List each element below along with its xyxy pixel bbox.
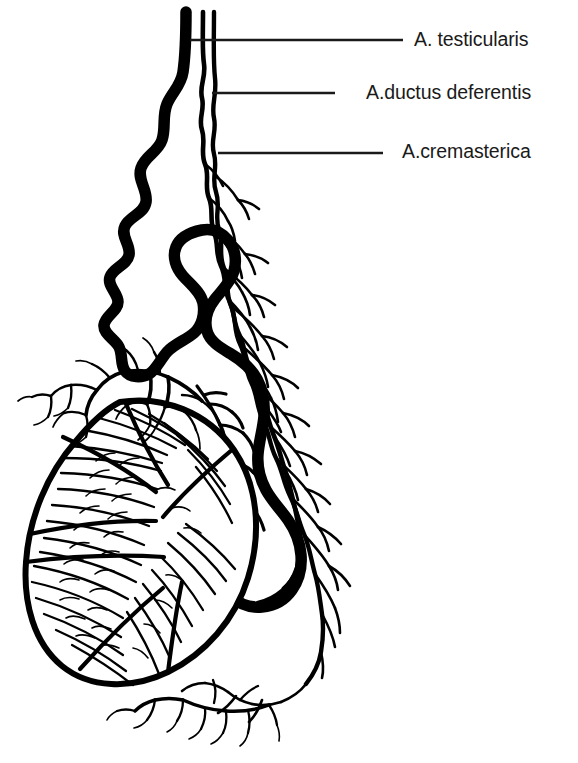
label-a-cremasterica: A.cremasterica: [402, 142, 531, 162]
label-a-testicularis: A. testicularis: [414, 30, 528, 50]
anatomical-figure: A. testicularis A.ductus deferentis A.cr…: [0, 0, 578, 763]
label-a-ductus-deferentis: A.ductus deferentis: [366, 83, 531, 103]
anatomy-illustration: [0, 0, 578, 763]
